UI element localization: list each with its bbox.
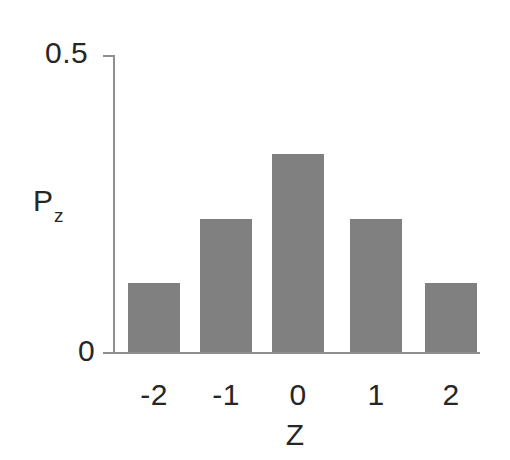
plot-area	[113, 55, 480, 352]
y-axis-tick-label-zero: 0	[78, 336, 95, 366]
bar	[200, 219, 252, 352]
x-axis-line	[113, 352, 480, 354]
bar	[128, 283, 180, 352]
bar	[350, 219, 402, 352]
y-axis-title-subscript: z	[54, 205, 64, 226]
x-axis-tick-label: 0	[268, 380, 328, 410]
x-axis-tick-label: 2	[421, 380, 481, 410]
x-axis-tick-label: 1	[346, 380, 406, 410]
y-axis-zero-tick	[103, 352, 114, 354]
y-axis-title: Pz	[33, 186, 63, 221]
y-axis-title-base: P	[33, 184, 53, 217]
bar	[272, 154, 324, 352]
x-axis-title: Z	[0, 420, 510, 450]
x-axis-tick-label: -2	[124, 380, 184, 410]
y-axis-tick-label-max: 0.5	[45, 38, 88, 68]
bar	[425, 283, 477, 352]
x-axis-tick-label: -1	[196, 380, 256, 410]
bar-chart-figure: 0.5 0 Pz -2-1012 Z	[0, 0, 510, 460]
